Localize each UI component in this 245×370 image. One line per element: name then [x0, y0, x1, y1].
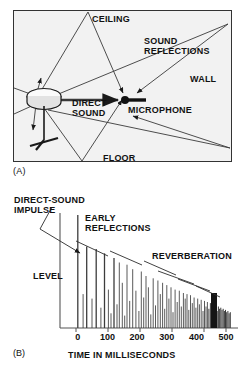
label-microphone: MICROPHONE	[128, 105, 192, 115]
ceiling-reflection-path-down	[88, 12, 123, 93]
label-early-reflections: EARLY REFLECTIONS	[85, 213, 151, 233]
x-tick-label: 200	[125, 332, 149, 342]
label-direct-sound-impulse-line1: DIRECT-SOUND	[14, 195, 85, 205]
label-sound-reflections-line1: SOUND	[144, 36, 178, 46]
label-level: LEVEL	[33, 271, 63, 281]
label-direct-sound-line1: DIRECT	[72, 98, 107, 108]
label-sound-reflections: SOUND REFLECTIONS	[144, 36, 210, 56]
ceiling-reflection-path-up	[38, 12, 88, 96]
x-tick-label: 300	[155, 332, 179, 342]
microphone-icon	[121, 96, 146, 104]
panel-a-room-diagram: CEILING SOUND REFLECTIONS WALL DIRECT SO…	[0, 0, 245, 185]
label-early-reflections-line1: EARLY	[85, 213, 116, 223]
panel-b-impulse-chart: DIRECT-SOUND IMPULSE EARLY REFLECTIONS R…	[0, 185, 245, 370]
label-direct-sound: DIRECT SOUND	[72, 98, 107, 118]
label-reverberation: REVERBERATION	[152, 251, 232, 261]
label-floor: FLOOR	[103, 153, 136, 163]
x-tick-label: 500	[214, 332, 238, 342]
label-wall: WALL	[190, 74, 216, 84]
label-sound-reflections-line2: REFLECTIONS	[144, 46, 210, 56]
reverb-tail-block	[211, 293, 217, 328]
label-direct-sound-line2: SOUND	[72, 108, 106, 118]
loudspeaker-icon	[27, 89, 61, 151]
label-direct-sound-impulse-line2: IMPULSE	[14, 205, 55, 215]
label-x-axis-title: TIME IN MILLISECONDS	[68, 350, 176, 360]
x-tick-label: 0	[66, 332, 90, 342]
label-direct-sound-impulse: DIRECT-SOUND IMPULSE	[14, 195, 85, 215]
panel-a-caption: (A)	[13, 166, 26, 176]
label-early-reflections-line2: REFLECTIONS	[85, 223, 151, 233]
panel-b-caption: (B)	[13, 348, 25, 358]
x-tick-label: 400	[185, 332, 209, 342]
label-ceiling: CEILING	[92, 14, 130, 24]
x-tick-label: 100	[96, 332, 120, 342]
side-wall-reflection-path-in	[133, 116, 230, 148]
